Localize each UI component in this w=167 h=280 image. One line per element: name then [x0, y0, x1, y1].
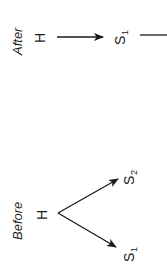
node-h-label: H: [34, 210, 50, 220]
before-arrow-h-to-s2: [58, 179, 118, 213]
before-panel: Before H S 2 S 1: [10, 170, 139, 262]
node-s1-subscript: 1: [129, 247, 139, 252]
before-node-h: H: [34, 210, 50, 220]
after-node-h: H: [32, 33, 48, 43]
before-node-s2: S 2: [121, 170, 139, 185]
after-label: After: [10, 27, 25, 56]
node-s2-subscript: 2: [129, 170, 139, 175]
after-node-s1: S 1: [112, 30, 130, 45]
diagram-canvas: After H S 1 Before H S 2 S 1: [0, 0, 167, 280]
node-h-label: H: [32, 33, 48, 43]
node-s1-label: S: [121, 253, 137, 262]
node-s2-label: S: [121, 176, 137, 185]
before-arrow-h-to-s1: [58, 213, 116, 247]
before-label: Before: [10, 202, 25, 240]
after-panel: After H S 1: [10, 27, 167, 56]
before-node-s1: S 1: [121, 247, 139, 262]
node-s1-label: S: [112, 36, 128, 45]
node-s1-subscript: 1: [120, 30, 130, 35]
